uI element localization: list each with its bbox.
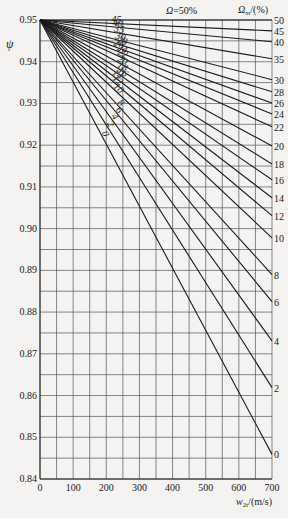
right-label: 10 [274, 233, 284, 244]
right-label: 26 [274, 98, 284, 109]
right-label: 0 [274, 449, 279, 460]
y-tick-label: 0.94 [20, 56, 38, 67]
right-label: 4 [274, 336, 279, 347]
y-tick-label: 0.93 [20, 97, 38, 108]
right-label: 35 [274, 54, 284, 65]
y-tick-label: 0.90 [20, 223, 38, 234]
right-label: 30 [274, 75, 284, 86]
y-tick-label: 0.87 [20, 348, 38, 359]
x-tick-label: 400 [165, 482, 180, 493]
right-label: 28 [274, 87, 284, 98]
right-label: 16 [274, 175, 284, 186]
right-label: 2 [274, 383, 279, 394]
x-tick-label: 300 [132, 482, 147, 493]
right-label: 50 [274, 15, 284, 26]
right-label: 18 [274, 159, 284, 170]
legend-title-left: Ω=50% [166, 5, 197, 16]
y-tick-label: 0.95 [20, 14, 38, 25]
x-tick-label: 100 [66, 482, 81, 493]
chart: 01002003004005006007000.840.850.860.870.… [0, 0, 288, 518]
right-label: 6 [274, 297, 279, 308]
x-tick-label: 500 [198, 482, 213, 493]
y-tick-label: 0.85 [20, 431, 38, 442]
inline-label: 0 [100, 129, 112, 139]
x-tick-label: 600 [231, 482, 246, 493]
y-axis-label: ψ [6, 37, 14, 51]
legend-title-right: Ωm/(%) [238, 4, 268, 17]
y-tick-label: 0.89 [20, 264, 38, 275]
right-label: 40 [274, 37, 284, 48]
y-tick-label: 0.88 [20, 306, 38, 317]
right-label: 22 [274, 122, 284, 133]
grid [40, 20, 272, 479]
right-label: 20 [274, 141, 284, 152]
right-label: 14 [274, 193, 284, 204]
y-tick-label: 0.84 [20, 473, 38, 484]
right-label: 45 [274, 26, 284, 37]
right-label: 8 [274, 270, 279, 281]
x-tick-label: 700 [265, 482, 280, 493]
x-axis-label: w2t/(m/s) [236, 496, 272, 509]
right-label: 24 [274, 109, 284, 120]
y-tick-label: 0.91 [20, 181, 38, 192]
x-tick-label: 200 [99, 482, 114, 493]
right-label: 12 [274, 211, 284, 222]
x-tick-label: 0 [38, 482, 43, 493]
y-tick-label: 0.86 [20, 390, 38, 401]
ticks: 01002003004005006007000.840.850.860.870.… [20, 14, 280, 493]
y-tick-label: 0.92 [20, 139, 38, 150]
